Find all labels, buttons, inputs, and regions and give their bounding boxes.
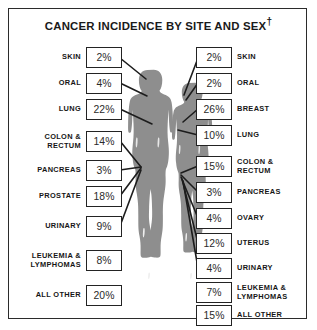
site-label: ORAL: [59, 79, 86, 88]
site-label: SKIN: [62, 53, 86, 62]
value-box: 12%: [196, 233, 232, 254]
cancer-incidence-figure: CANCER INCIDENCE BY SITE AND SEX†: [0, 0, 317, 330]
row-right-leukemia-lymphomas: 7% LEUKEMIA & LYMPHOMAS: [196, 282, 308, 303]
value-box: 4%: [196, 258, 232, 279]
site-label: UTERUS: [232, 239, 270, 248]
value-box: 2%: [196, 73, 232, 94]
row-right-skin: 2% SKIN: [196, 47, 308, 68]
row-left-all-other: ALL OTHER 20%: [14, 285, 122, 306]
site-label: ORAL: [232, 79, 259, 88]
site-label: LEUKEMIA & LYMPHOMAS: [30, 252, 86, 269]
value-box: 20%: [86, 285, 122, 306]
value-box: 3%: [86, 160, 122, 181]
value-box: 8%: [86, 250, 122, 271]
site-label: ALL OTHER: [232, 311, 282, 320]
site-label: BREAST: [232, 105, 270, 114]
value-box: 2%: [86, 47, 122, 68]
value-box: 2%: [196, 47, 232, 68]
value-box: 15%: [196, 156, 232, 177]
row-right-lung: 10% LUNG: [196, 125, 308, 146]
row-left-urinary: URINARY 9%: [14, 216, 122, 237]
row-right-breast: 26% BREAST: [196, 99, 308, 120]
footnote-dagger-icon: †: [266, 16, 272, 27]
site-label: PANCREAS: [232, 188, 281, 197]
value-box: 7%: [196, 282, 232, 303]
value-box: 26%: [196, 99, 232, 120]
row-left-lung: LUNG 22%: [14, 99, 122, 120]
site-label: LUNG: [59, 105, 86, 114]
row-left-skin: SKIN 2%: [14, 47, 122, 68]
row-right-all-other: 15% ALL OTHER: [196, 305, 308, 326]
value-box: 3%: [196, 182, 232, 203]
row-right-oral: 2% ORAL: [196, 73, 308, 94]
row-right-pancreas: 3% PANCREAS: [196, 182, 308, 203]
site-label: LUNG: [232, 131, 259, 140]
site-label: PANCREAS: [37, 166, 86, 175]
page-title: CANCER INCIDENCE BY SITE AND SEX†: [0, 16, 317, 32]
value-box: 9%: [86, 216, 122, 237]
site-label: OVARY: [232, 214, 264, 223]
site-label: COLON & RECTUM: [232, 158, 274, 175]
value-box: 15%: [196, 305, 232, 326]
row-left-prostate: PROSTATE 18%: [14, 186, 122, 207]
row-left-colon-rectum: COLON & RECTUM 14%: [14, 131, 122, 152]
row-right-urinary: 4% URINARY: [196, 258, 308, 279]
row-right-ovary: 4% OVARY: [196, 208, 308, 229]
value-box: 4%: [196, 208, 232, 229]
site-label: COLON & RECTUM: [44, 133, 86, 150]
value-box: 18%: [86, 186, 122, 207]
site-label: ALL OTHER: [36, 291, 86, 300]
value-box: 22%: [86, 99, 122, 120]
site-label: URINARY: [45, 222, 86, 231]
value-box: 4%: [86, 73, 122, 94]
value-box: 14%: [86, 131, 122, 152]
site-label: SKIN: [232, 53, 256, 62]
row-left-leukemia-lymphomas: LEUKEMIA & LYMPHOMAS 8%: [14, 250, 122, 271]
chart-title-text: CANCER INCIDENCE BY SITE AND SEX: [45, 20, 267, 32]
value-box: 10%: [196, 125, 232, 146]
site-label: URINARY: [232, 264, 273, 273]
row-left-oral: ORAL 4%: [14, 73, 122, 94]
row-left-pancreas: PANCREAS 3%: [14, 160, 122, 181]
row-right-colon-rectum: 15% COLON & RECTUM: [196, 156, 308, 177]
row-right-uterus: 12% UTERUS: [196, 233, 308, 254]
site-label: PROSTATE: [39, 192, 86, 201]
site-label: LEUKEMIA & LYMPHOMAS: [232, 284, 288, 301]
